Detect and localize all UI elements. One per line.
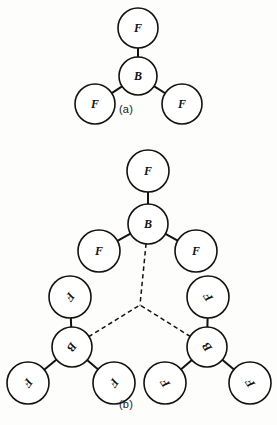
- atom-f-terminal: F: [7, 362, 49, 404]
- solid-bond: [111, 86, 122, 93]
- dashed-bond: [89, 305, 141, 337]
- solid-bond: [181, 360, 193, 370]
- atom-label: F: [94, 244, 103, 258]
- atom-b-center: B: [119, 57, 157, 95]
- atom-f-terminal: F: [78, 230, 120, 272]
- atom-layer: BFFFBFFFBFFFBFFF: [7, 8, 271, 404]
- atom-f-terminal: F: [127, 150, 169, 192]
- solid-bond: [165, 234, 178, 241]
- atom-f-terminal: F: [162, 84, 202, 124]
- atom-label: F: [133, 21, 142, 35]
- atom-b-center: B: [187, 327, 227, 367]
- solid-bond: [44, 359, 57, 370]
- atom-f-terminal: F: [49, 276, 91, 318]
- atom-f-terminal: F: [144, 362, 186, 404]
- panel-a-caption: (a): [119, 103, 133, 115]
- atom-b-center: B: [52, 327, 92, 367]
- solid-bond: [222, 360, 234, 370]
- solid-bond: [117, 233, 131, 241]
- atom-label: B: [143, 217, 152, 231]
- solid-bond: [154, 86, 166, 94]
- atom-label: B: [133, 69, 142, 83]
- atom-label: F: [90, 97, 99, 111]
- dashed-bond: [140, 243, 146, 305]
- atom-label: F: [191, 244, 200, 258]
- diagram-canvas: BFFFBFFFBFFFBFFF: [0, 0, 277, 425]
- atom-f-terminal: F: [175, 230, 217, 272]
- atom-f-terminal: F: [229, 362, 271, 404]
- solid-bond: [87, 360, 99, 370]
- atom-f-terminal: F: [187, 276, 229, 318]
- atom-label: F: [143, 164, 152, 178]
- atom-label: F: [177, 97, 186, 111]
- panel-b-caption: (b): [119, 398, 133, 410]
- atom-f-terminal: F: [75, 84, 115, 124]
- atom-b-center: B: [128, 204, 168, 244]
- atom-f-terminal: F: [118, 8, 158, 48]
- dashed-bond: [140, 305, 191, 337]
- molecular-diagram-figure: BFFFBFFFBFFFBFFF (a) (b): [0, 0, 277, 425]
